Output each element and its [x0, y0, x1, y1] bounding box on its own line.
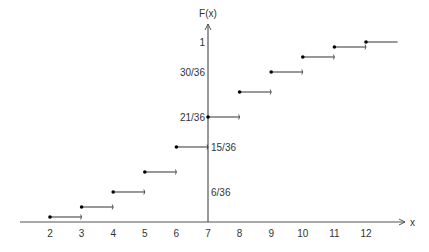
x-tick-label: 7 — [205, 228, 211, 239]
step-closed-dot — [269, 70, 273, 74]
cdf-step-chart: xF(x)23456789101112130/3621/3615/366/36 — [0, 0, 429, 252]
x-tick-label: 4 — [110, 228, 116, 239]
tick-labels: xF(x)23456789101112130/3621/3615/366/36 — [47, 8, 415, 239]
y-tick-label: 21/36 — [180, 112, 205, 123]
x-tick-label: 6 — [174, 228, 180, 239]
step-closed-dot — [206, 115, 210, 119]
step-closed-dot — [238, 90, 242, 94]
y-tick-label: 15/36 — [211, 142, 236, 153]
step-closed-dot — [333, 45, 337, 49]
x-tick-label: 11 — [329, 228, 340, 239]
step-closed-dot — [301, 55, 305, 59]
x-tick-label: 9 — [268, 228, 274, 239]
y-tick-label: 6/36 — [211, 187, 231, 198]
step-closed-dot — [80, 205, 84, 209]
x-tick-label: 3 — [79, 228, 85, 239]
step-closed-dot — [143, 170, 147, 174]
x-tick-label: 2 — [47, 228, 53, 239]
x-tick-label: 12 — [360, 228, 372, 239]
step-closed-dot — [364, 40, 368, 44]
x-tick-label: 8 — [237, 228, 243, 239]
x-tick-label: 10 — [297, 228, 309, 239]
x-axis-label: x — [410, 217, 415, 228]
step-closed-dot — [111, 190, 115, 194]
step-closed-dot — [48, 215, 52, 219]
y-tick-label: 30/36 — [180, 67, 205, 78]
y-tick-label: 1 — [199, 37, 205, 48]
x-tick-label: 5 — [142, 228, 148, 239]
y-axis-label: F(x) — [199, 8, 217, 19]
step-closed-dot — [175, 145, 179, 149]
